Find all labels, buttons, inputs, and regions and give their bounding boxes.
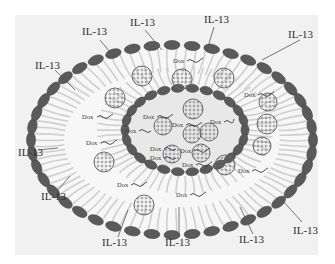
il13-label: IL-13 xyxy=(102,237,127,248)
dox-label: Dox xyxy=(143,114,154,121)
il13-label: IL-13 xyxy=(82,26,107,37)
dox-label: Dox xyxy=(82,114,93,121)
dox-label: Dox xyxy=(172,122,183,129)
dox-label: Dox xyxy=(176,192,187,199)
dox-label: Dox xyxy=(210,119,221,126)
dox-label: Dox xyxy=(182,162,193,169)
dox-label: Dox xyxy=(150,146,161,153)
il13-label: IL-13 xyxy=(41,191,66,202)
dox-label: Dox xyxy=(86,140,97,147)
dox-label: Dox xyxy=(173,58,184,65)
dox-label: Dox xyxy=(117,182,128,189)
dox-label: Dox xyxy=(150,155,161,162)
il13-label: IL-13 xyxy=(35,60,60,71)
il13-label: IL-13 xyxy=(204,14,229,25)
dox-label: Dox xyxy=(125,128,136,135)
il13-label: IL-13 xyxy=(18,147,43,158)
il13-label: IL-13 xyxy=(165,237,190,248)
il13-label: IL-13 xyxy=(293,225,318,236)
dox-label: Dox xyxy=(238,168,249,175)
dox-label: Dox xyxy=(180,148,191,155)
liposome-diagram xyxy=(0,0,335,264)
il13-label: IL-13 xyxy=(239,234,264,245)
dox-label: Dox xyxy=(244,92,255,99)
il13-label: IL-13 xyxy=(288,29,313,40)
il13-label: IL-13 xyxy=(130,17,155,28)
